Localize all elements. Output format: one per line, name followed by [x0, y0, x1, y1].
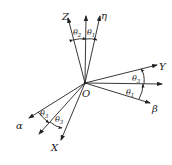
theta-label-3-right: θ3 [132, 74, 141, 84]
theta-label-2-top: θ2 [73, 28, 82, 38]
arc-theta1-right [139, 84, 143, 99]
label-alpha: α [16, 120, 23, 131]
arc-theta2 [73, 39, 86, 40]
axis-horizontal [85, 83, 162, 84]
coordinate-rotation-diagram: Z η Y β α X O θ2 θ1 θ3 θ1 θ3 θ3 [0, 0, 172, 165]
theta-label-3-left1: θ3 [40, 109, 49, 119]
theta-label-1-right: θ1 [126, 88, 134, 98]
theta-label-1-top: θ1 [87, 28, 95, 38]
axis-y [85, 65, 157, 83]
arc-theta3-right [141, 69, 144, 84]
axis-beta [85, 83, 150, 103]
origin-point [84, 82, 86, 84]
label-origin: O [82, 88, 90, 99]
label-y: Y [159, 61, 167, 72]
label-beta: β [151, 103, 158, 114]
label-x: X [50, 142, 59, 153]
axis-eta [85, 16, 100, 83]
axis-alpha [29, 83, 85, 118]
label-eta: η [101, 10, 107, 21]
arc-theta1-top [86, 39, 97, 40]
axis-vertical [85, 16, 86, 83]
label-z: Z [61, 11, 70, 22]
theta-label-3-left2: θ3 [55, 115, 64, 125]
axis-middle [39, 83, 85, 134]
